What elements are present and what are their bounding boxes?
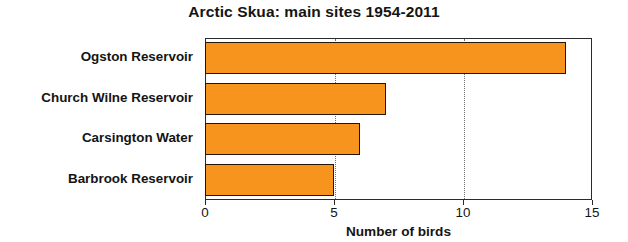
x-axis-tick-label: 10 [456,205,471,220]
bar-carsington-water [205,123,360,155]
y-axis-tick-label: Barbrook Reservoir [0,171,193,186]
bars-layer [205,38,592,200]
x-axis-tick-label: 0 [201,205,208,220]
chart-title: Arctic Skua: main sites 1954-2011 [0,3,628,21]
x-axis-title: Number of birds [205,224,592,239]
bar-row [205,38,592,79]
x-axis-tick-label: 15 [585,205,600,220]
bar-chart: Arctic Skua: main sites 1954-2011 Ogston… [0,0,628,242]
y-axis-tick-label: Church Wilne Reservoir [0,90,193,105]
bar-row [205,119,592,160]
bar-row [205,79,592,120]
y-axis-tick-label: Ogston Reservoir [0,49,193,64]
y-axis-tick-label: Carsington Water [0,130,193,145]
y-axis-labels: Ogston Reservoir Church Wilne Reservoir … [0,38,199,200]
bar-church-wilne-reservoir [205,83,386,115]
bar-row [205,160,592,201]
bar-barbrook-reservoir [205,164,334,196]
bar-ogston-reservoir [205,42,566,74]
x-axis-tick-label: 5 [330,205,337,220]
